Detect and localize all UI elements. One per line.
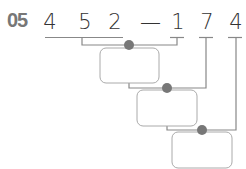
diagram-lines [0,0,246,169]
answer-box-3[interactable] [172,132,232,168]
connector-dot-1 [124,40,134,50]
answer-box-2[interactable] [137,90,197,126]
answer-box-1[interactable] [100,48,159,83]
connector-dot-2 [162,83,172,93]
connector-dot-3 [197,125,207,135]
